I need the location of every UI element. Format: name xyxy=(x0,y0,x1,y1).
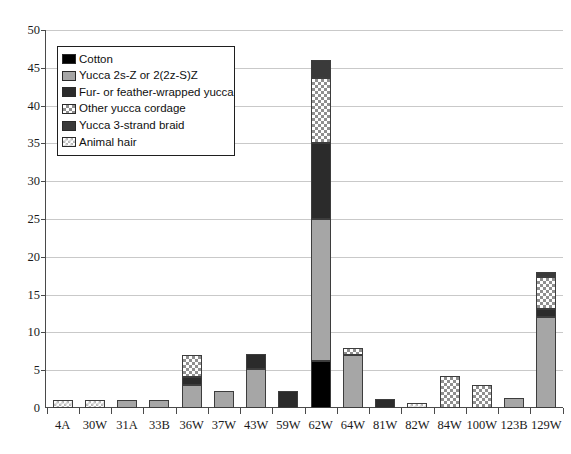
x-tick-label: 31A xyxy=(111,418,143,433)
x-tick-label: 36W xyxy=(176,418,208,433)
bar-segment xyxy=(536,317,556,408)
bar-segment xyxy=(311,219,331,361)
x-tick-label: 30W xyxy=(79,418,111,433)
bar-segment xyxy=(472,385,492,408)
y-tick-label: 20 xyxy=(28,251,41,264)
x-tick-label: 129W xyxy=(530,418,562,433)
x-tick-label: 62W xyxy=(305,418,337,433)
x-tick-mark xyxy=(498,408,499,414)
bar-segment xyxy=(343,355,363,408)
y-tick-label: 30 xyxy=(28,175,41,188)
bar-segment xyxy=(311,143,331,219)
yucca-2sz-swatch xyxy=(62,71,76,81)
bar-segment xyxy=(311,361,331,408)
bar-segment xyxy=(182,385,202,408)
fur-feather-swatch xyxy=(62,87,76,97)
x-tick-mark xyxy=(79,408,80,414)
bar-segment xyxy=(246,369,266,408)
x-tick-label: 100W xyxy=(466,418,498,433)
bar-segment xyxy=(246,354,266,369)
x-tick-label: 43W xyxy=(240,418,272,433)
x-tick-mark xyxy=(434,408,435,414)
y-tick-mark xyxy=(41,68,46,69)
x-tick-mark xyxy=(176,408,177,414)
x-tick-mark xyxy=(466,408,467,414)
y-tick-label: 5 xyxy=(34,364,40,377)
bar-segment xyxy=(504,398,524,408)
x-tick-mark xyxy=(47,408,48,414)
y-tick-mark xyxy=(41,257,46,258)
x-tick-mark xyxy=(530,408,531,414)
y-tick-label: 15 xyxy=(28,288,41,301)
x-tick-label: 64W xyxy=(337,418,369,433)
y-axis-labels: 05101520253035404550 xyxy=(0,30,40,408)
stacked-bar-chart: 05101520253035404550 4A30W31A33B36W37W43… xyxy=(0,0,571,454)
x-axis-ticks xyxy=(47,408,563,416)
bar-group xyxy=(440,30,460,408)
legend-item-label: Animal hair xyxy=(79,137,137,149)
x-tick-mark xyxy=(563,408,564,414)
legend-item: Other yucca cordage xyxy=(62,101,229,118)
bar-segment xyxy=(375,399,395,408)
bar-segment xyxy=(311,78,331,144)
bar-group xyxy=(246,30,266,408)
bar-segment xyxy=(536,277,556,309)
bar-segment xyxy=(182,377,202,385)
x-tick-label: 33B xyxy=(143,418,175,433)
legend-item: Fur- or feather-wrapped yucca xyxy=(62,84,229,101)
cotton-swatch xyxy=(62,54,76,64)
legend-item: Yucca 3-strand braid xyxy=(62,117,229,134)
bar-segment xyxy=(53,400,73,408)
bar-segment xyxy=(117,400,137,408)
y-tick-label: 40 xyxy=(28,99,41,112)
bar-group xyxy=(504,30,524,408)
bar-group xyxy=(311,30,331,408)
bar-segment xyxy=(182,355,202,377)
x-tick-mark xyxy=(305,408,306,414)
y-tick-mark xyxy=(41,143,46,144)
y-tick-mark xyxy=(41,181,46,182)
legend-item-label: Yucca 2s-Z or 2(2z-S)Z xyxy=(79,70,198,82)
x-tick-mark xyxy=(272,408,273,414)
other-cordage-swatch xyxy=(62,104,76,114)
bar-group xyxy=(278,30,298,408)
bar-segment xyxy=(214,391,234,408)
bar-segment xyxy=(311,60,331,77)
bar-segment xyxy=(149,400,169,408)
y-tick-mark xyxy=(41,332,46,333)
y-tick-label: 45 xyxy=(28,62,41,75)
legend-item: Cotton xyxy=(62,51,229,68)
bar-segment xyxy=(85,400,105,408)
x-tick-mark xyxy=(240,408,241,414)
y-tick-mark xyxy=(41,370,46,371)
x-tick-label: 123B xyxy=(498,418,530,433)
x-axis-labels: 4A30W31A33B36W37W43W59W62W64W81W82W84W10… xyxy=(47,418,563,440)
bar-group xyxy=(343,30,363,408)
bar-segment xyxy=(536,309,556,317)
bar-group xyxy=(407,30,427,408)
x-tick-label: 37W xyxy=(208,418,240,433)
legend-item-label: Yucca 3-strand braid xyxy=(79,120,184,132)
bar-segment xyxy=(440,376,460,408)
y-tick-mark xyxy=(41,219,46,220)
animal-hair-swatch xyxy=(62,137,76,147)
y-tick-mark xyxy=(41,30,46,31)
legend-item-label: Fur- or feather-wrapped yucca xyxy=(79,87,234,99)
bar-segment xyxy=(536,272,556,277)
x-tick-label: 82W xyxy=(401,418,433,433)
y-tick-label: 35 xyxy=(28,137,41,150)
x-tick-mark xyxy=(143,408,144,414)
legend-item: Animal hair xyxy=(62,134,229,151)
y-tick-mark xyxy=(41,106,46,107)
x-tick-mark xyxy=(401,408,402,414)
bar-group xyxy=(536,30,556,408)
y-tick-label: 50 xyxy=(28,24,41,37)
x-tick-label: 4A xyxy=(47,418,79,433)
y-tick-label: 0 xyxy=(34,402,40,415)
x-tick-mark xyxy=(337,408,338,414)
bar-group xyxy=(472,30,492,408)
bar-group xyxy=(375,30,395,408)
braid-swatch xyxy=(62,121,76,131)
x-tick-label: 84W xyxy=(434,418,466,433)
x-tick-mark xyxy=(111,408,112,414)
